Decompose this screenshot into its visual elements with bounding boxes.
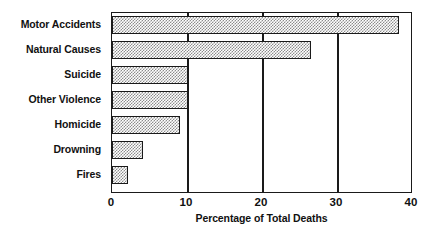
x-tick-label-20: 20	[255, 196, 268, 208]
category-label-suicide: Suicide	[0, 62, 106, 87]
category-label-other-violence: Other Violence	[0, 87, 106, 112]
bar-other-violence	[112, 91, 188, 109]
bar-suicide	[112, 66, 188, 84]
x-tick-label-0: 0	[108, 196, 114, 208]
category-axis-labels: Motor Accidents Natural Causes Suicide O…	[0, 12, 106, 187]
category-label-motor-accidents: Motor Accidents	[0, 12, 106, 37]
bar-natural-causes	[112, 41, 311, 59]
plot-area	[111, 12, 412, 193]
bar-slot-other-violence	[112, 88, 411, 113]
bar-slot-fires	[112, 163, 411, 188]
category-label-natural-causes: Natural Causes	[0, 37, 106, 62]
bar-slot-natural-causes	[112, 38, 411, 63]
x-tick-label-40: 40	[405, 196, 418, 208]
category-label-drowning: Drowning	[0, 137, 106, 162]
bar-motor-accidents	[112, 16, 399, 34]
bar-series	[112, 13, 411, 192]
category-label-fires: Fires	[0, 162, 106, 187]
x-axis-title: Percentage of Total Deaths	[111, 212, 412, 224]
category-label-homicide: Homicide	[0, 112, 106, 137]
x-tick-label-10: 10	[180, 196, 193, 208]
bar-drowning	[112, 141, 143, 159]
x-tick-label-30: 30	[330, 196, 343, 208]
x-axis-tick-labels: 0 10 20 30 40	[111, 196, 412, 212]
bar-slot-motor-accidents	[112, 13, 411, 38]
bar-slot-drowning	[112, 138, 411, 163]
bar-chart: Motor Accidents Natural Causes Suicide O…	[0, 0, 435, 241]
bar-slot-suicide	[112, 63, 411, 88]
bar-fires	[112, 166, 128, 184]
bar-homicide	[112, 116, 180, 134]
bar-slot-homicide	[112, 113, 411, 138]
